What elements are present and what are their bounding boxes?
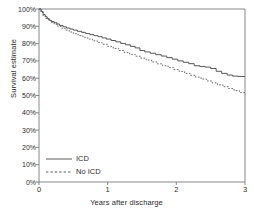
survival-chart: 0%10%20%30%40%50%60%70%80%90%100% 0123 I… [0, 0, 253, 213]
y-axis-title: Survival estimate [9, 9, 18, 129]
x-axis-title: Years after discharge [0, 198, 253, 207]
legend: ICDNo ICD [0, 0, 253, 213]
legend-label-icd: ICD [76, 155, 89, 163]
legend-label-no-icd: No ICD [76, 168, 101, 176]
